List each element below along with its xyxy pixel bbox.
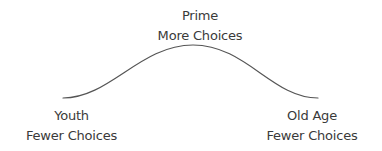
life-stage-choices-diagram: Prime More Choices Youth Fewer Choices O… [0,0,382,151]
old-age-label: Old Age Fewer Choices [252,106,372,146]
peak-label: Prime More Choices [140,6,260,46]
youth-label-subtitle: Fewer Choices [0,126,143,146]
youth-label-title: Youth [0,106,143,126]
old-age-label-subtitle: Fewer Choices [252,126,372,146]
bell-curve-line [63,45,318,98]
old-age-label-title: Old Age [252,106,372,126]
youth-label: Youth Fewer Choices [0,106,143,146]
peak-label-title: Prime [140,6,260,26]
peak-label-subtitle: More Choices [140,26,260,46]
